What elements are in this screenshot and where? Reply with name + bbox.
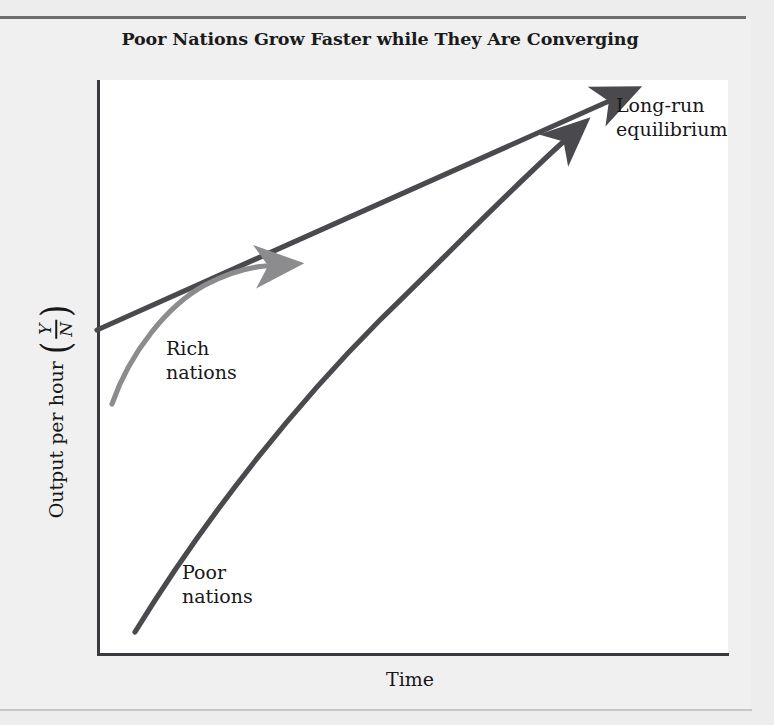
poor-nations-label-line2: nations [182, 585, 253, 609]
paren-close: ) [40, 305, 73, 317]
y-axis-title: Output per hour ( Y N ) [37, 251, 75, 571]
y-axis-title-text: Output per hour [45, 361, 67, 518]
plot-container: Long-run equilibrium Rich nations Poor n… [0, 0, 774, 725]
long-run-equilibrium-label-line2: equilibrium [616, 118, 727, 142]
long-run-equilibrium-line [97, 102, 607, 330]
y-axis-fraction-group: ( Y N ) [37, 303, 75, 355]
fraction-denominator: N [57, 320, 75, 339]
long-run-equilibrium-label-line1: Long-run [616, 94, 727, 118]
figure-page: Poor Nations Grow Faster while They Are … [0, 0, 774, 725]
paren-open: ( [40, 341, 73, 353]
y-axis-fraction: Y N [37, 319, 75, 340]
poor-nations-label: Poor nations [182, 561, 253, 609]
long-run-equilibrium-label: Long-run equilibrium [616, 94, 727, 142]
poor-nations-label-line1: Poor [182, 561, 253, 585]
x-axis-title: Time [330, 668, 490, 690]
rich-nations-label-line1: Rich [166, 337, 237, 361]
rich-nations-label-line2: nations [166, 361, 237, 385]
rich-nations-label: Rich nations [166, 337, 237, 385]
fraction-numerator: Y [37, 322, 55, 337]
